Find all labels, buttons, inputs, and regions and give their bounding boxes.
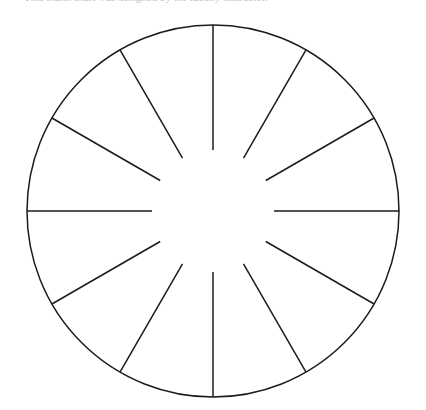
- pie-chart-svg: [0, 0, 426, 410]
- page-canvas: This blank chart was designed by the fac…: [0, 0, 426, 410]
- pie-chart-figure: [0, 0, 426, 410]
